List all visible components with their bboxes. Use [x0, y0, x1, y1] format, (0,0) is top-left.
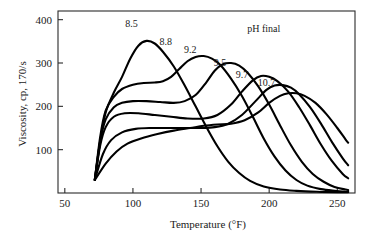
curve-label-ph-9.2: 9.2: [184, 44, 197, 55]
x-tick-label: 100: [125, 197, 142, 209]
x-tick-label: 200: [261, 197, 278, 209]
curve-ph-9.5: [95, 76, 348, 180]
y-tick-label: 100: [36, 144, 53, 156]
curve-label-ph-8.8: 8.8: [159, 36, 172, 47]
y-tick-label: 400: [36, 14, 53, 26]
curve-label-ph-10.7: 10.7: [258, 77, 276, 88]
viscosity-vs-temperature-chart: 50100150200250 100200300400 8.58.89.29.5…: [0, 0, 370, 236]
annotation-ph-final: pH final: [247, 23, 280, 34]
y-tick-label: 200: [36, 100, 53, 112]
chart-annotations: pH final: [247, 23, 280, 34]
curve-label-ph-9.5: 9.5: [214, 57, 227, 68]
x-axis-title: Temperature (°F): [170, 218, 246, 231]
x-tick-label: 150: [193, 197, 210, 209]
plot-frame: [58, 11, 355, 193]
curve-label-ph-8.5: 8.5: [125, 18, 138, 29]
curve-label-ph-9.7: 9.7: [236, 69, 249, 80]
y-axis-ticks: 100200300400: [36, 14, 64, 156]
y-tick-label: 300: [36, 57, 53, 69]
y-axis-title: Viscosity, cp, 170/s: [16, 61, 28, 146]
chart-figure: 50100150200250 100200300400 8.58.89.29.5…: [0, 0, 370, 236]
x-tick-label: 250: [329, 197, 346, 209]
plot-border: [58, 11, 355, 193]
x-tick-label: 50: [59, 197, 71, 209]
